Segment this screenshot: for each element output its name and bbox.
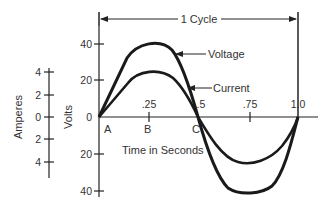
time-tick-075: .75 <box>243 98 258 110</box>
volt-tick-neg20: 20 <box>80 148 92 160</box>
amperes-axis <box>44 68 54 178</box>
time-tick-10: 1.0 <box>291 98 306 110</box>
time-axis <box>99 112 318 122</box>
voltage-label: Voltage <box>208 48 245 60</box>
time-tick-05: .5 <box>197 98 206 110</box>
amp-tick-neg2: 2 <box>35 133 41 145</box>
cycle-label: 1 Cycle <box>181 13 218 25</box>
amperes-label: Amperes <box>12 94 24 139</box>
time-tick-025: .25 <box>142 98 157 110</box>
amp-tick-0: 0 <box>35 111 41 123</box>
volt-tick-0: 0 <box>86 111 92 123</box>
volts-label: Volts <box>62 105 74 129</box>
volt-tick-neg40: 40 <box>80 185 92 197</box>
ac-sine-wave-diagram: 1 Cycle 4 2 0 2 4 Amperes 40 20 0 20 40 … <box>0 0 335 210</box>
point-b-label: B <box>144 123 151 135</box>
volt-tick-40: 40 <box>80 38 92 50</box>
time-axis-label: Time in Seconds <box>122 144 204 156</box>
current-label: Current <box>213 82 250 94</box>
amp-tick-4: 4 <box>35 66 41 78</box>
volt-tick-20: 20 <box>80 74 92 86</box>
point-a-label: A <box>104 123 112 135</box>
amp-tick-neg4: 4 <box>35 156 41 168</box>
amp-tick-2: 2 <box>35 89 41 101</box>
